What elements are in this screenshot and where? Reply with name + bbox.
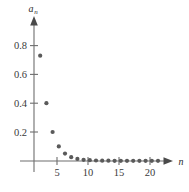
x-tick-label-3: 20 [145, 167, 156, 178]
y-tick-label-3: 0.2 [14, 127, 27, 138]
x-axis-tick-labels: 5 10 15 20 [54, 167, 155, 178]
data-point [94, 158, 98, 162]
data-point-group [38, 54, 160, 163]
data-point [119, 159, 123, 163]
data-point [144, 159, 148, 163]
data-point [51, 130, 55, 134]
x-tick-label-2: 15 [114, 167, 125, 178]
data-point [57, 144, 61, 148]
y-axis-arrow-icon [30, 16, 38, 26]
data-point [131, 159, 135, 163]
data-point [150, 159, 154, 163]
data-point [44, 101, 48, 105]
data-point [75, 157, 79, 161]
data-point [137, 159, 141, 163]
y-tick-label-0: 0.8 [14, 40, 27, 51]
data-point [100, 159, 104, 163]
data-point [156, 159, 160, 163]
data-point [63, 152, 67, 156]
data-point [82, 158, 86, 162]
x-tick-label-0: 5 [54, 167, 59, 178]
data-point [38, 54, 42, 58]
data-point [69, 155, 73, 159]
x-tick-label-1: 10 [83, 167, 94, 178]
y-tick-label-2: 0.4 [14, 98, 28, 109]
x-axis-arrow-icon [164, 157, 174, 164]
y-axis-label: a [29, 3, 34, 14]
scatter-plot-figure: 0.8 0.6 0.4 0.2 5 10 15 20 a n n [0, 0, 189, 192]
data-point [125, 159, 129, 163]
data-point [88, 158, 92, 162]
y-axis-label-subscript: n [34, 8, 38, 16]
y-axis-tick-labels: 0.8 0.6 0.4 0.2 [14, 40, 28, 137]
data-point [106, 159, 110, 163]
y-tick-label-1: 0.6 [14, 69, 27, 80]
plot-canvas: 0.8 0.6 0.4 0.2 5 10 15 20 a n n [0, 0, 189, 192]
x-axis-label: n [179, 156, 184, 167]
data-point [113, 159, 117, 163]
